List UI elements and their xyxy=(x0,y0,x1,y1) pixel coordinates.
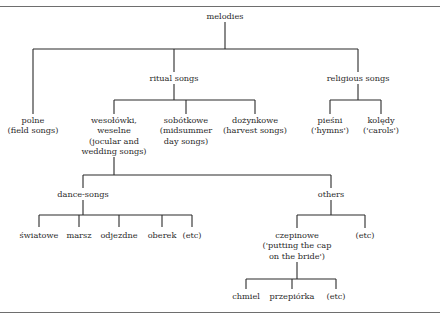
node-label-line: przepiórka xyxy=(270,291,315,301)
node-label-line: weselne xyxy=(81,125,146,135)
node-label-line: (field songs) xyxy=(7,125,58,135)
node-label-line: on the bride') xyxy=(263,251,332,261)
node-label-line: marsz xyxy=(66,230,91,240)
node-label-line: melodies xyxy=(206,11,243,21)
node-label-line: polne xyxy=(7,115,58,125)
node-label-line: dożynkowe xyxy=(223,115,287,125)
node-label-line: ritual songs xyxy=(149,73,198,83)
node-label-line: wesołówki, xyxy=(81,115,146,125)
node-polne: polne(field songs) xyxy=(7,115,58,136)
tree-diagram: melodiesritual songsreligious songspolne… xyxy=(0,0,440,318)
node-label-line: day songs) xyxy=(160,136,213,146)
node-label-line: others xyxy=(318,189,344,199)
node-marsz: marsz xyxy=(66,230,91,240)
node-ritual: ritual songs xyxy=(149,73,198,83)
node-piesni: pieśni('hymns') xyxy=(311,115,349,136)
node-dance: dance-songs xyxy=(57,189,108,199)
node-label-line: oberek xyxy=(148,230,177,240)
node-label-line: chmiel xyxy=(232,291,260,301)
node-etc2: (etc) xyxy=(355,230,374,240)
node-label-line: odjezdne xyxy=(100,230,137,240)
node-sobotkowe: sobótkowe(midsummerday songs) xyxy=(160,115,213,146)
node-melodies: melodies xyxy=(206,11,243,21)
node-label-line: pieśni xyxy=(311,115,349,125)
node-oberek: oberek xyxy=(148,230,177,240)
tree-connectors xyxy=(0,0,440,318)
node-wesolowki: wesołówki,weselne(jocular andwedding son… xyxy=(81,115,146,157)
node-label-line: ('hymns') xyxy=(311,125,349,135)
node-label-line: czepinowe xyxy=(263,230,332,240)
node-chmiel: chmiel xyxy=(232,291,260,301)
node-swiatowe: światowe xyxy=(20,230,59,240)
node-etc3: (etc) xyxy=(326,291,345,301)
node-religious: religious songs xyxy=(327,73,390,83)
node-label-line: światowe xyxy=(20,230,59,240)
node-label-line: (midsummer xyxy=(160,125,213,135)
node-label-line: ('carols') xyxy=(363,125,399,135)
node-label-line: kolędy xyxy=(363,115,399,125)
node-czepinowe: czepinowe('putting the capon the bride') xyxy=(263,230,332,261)
node-label-line: (jocular and xyxy=(81,136,146,146)
node-label-line: (etc) xyxy=(326,291,345,301)
node-label-line: dance-songs xyxy=(57,189,108,199)
node-etc1: (etc) xyxy=(182,230,201,240)
node-label-line: sobótkowe xyxy=(160,115,213,125)
node-label-line: (etc) xyxy=(355,230,374,240)
node-label-line: (harvest songs) xyxy=(223,125,287,135)
node-label-line: ('putting the cap xyxy=(263,240,332,250)
node-others: others xyxy=(318,189,344,199)
node-dozynkowe: dożynkowe(harvest songs) xyxy=(223,115,287,136)
node-koledy: kolędy('carols') xyxy=(363,115,399,136)
node-label-line: (etc) xyxy=(182,230,201,240)
node-label-line: wedding songs) xyxy=(81,146,146,156)
node-przepiorka: przepiórka xyxy=(270,291,315,301)
node-odjezdne: odjezdne xyxy=(100,230,137,240)
node-label-line: religious songs xyxy=(327,73,390,83)
